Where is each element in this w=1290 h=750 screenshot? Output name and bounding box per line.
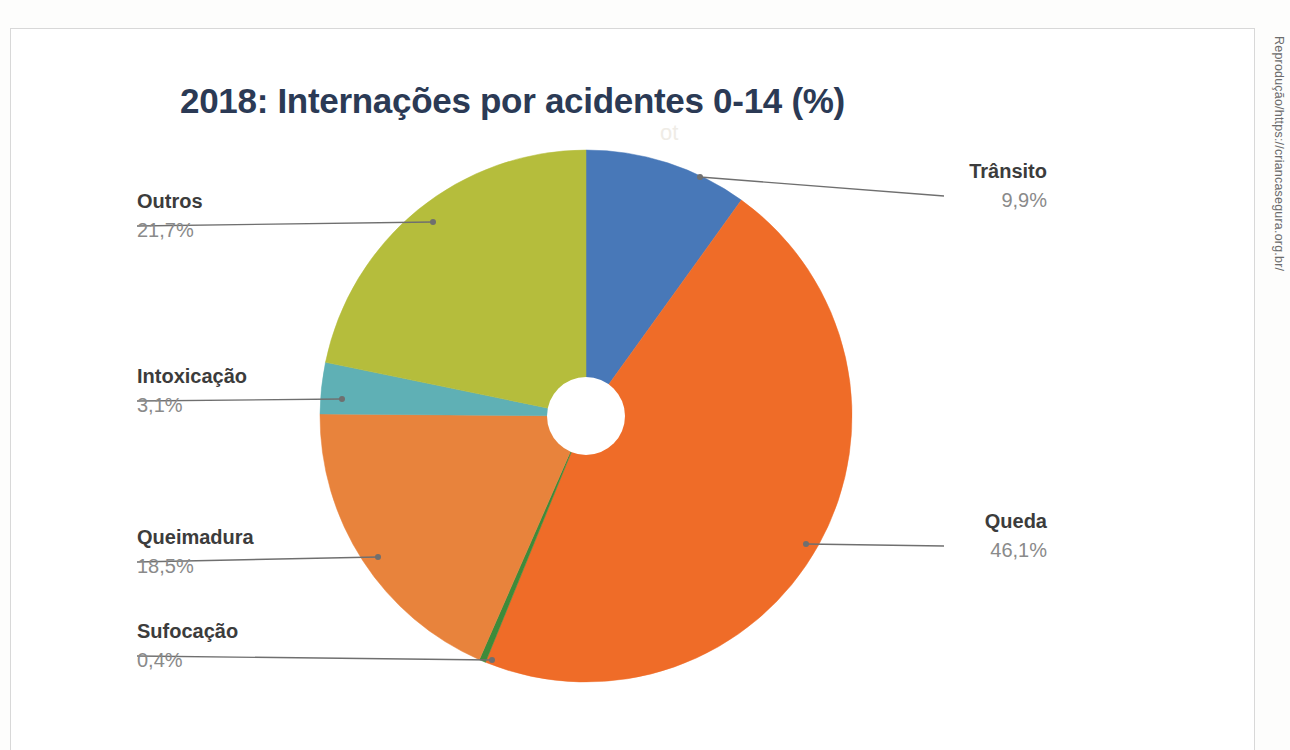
callout-label: Queimadura [137, 524, 457, 550]
callout-value: 21,7% [137, 214, 457, 244]
callout-queda: Queda46,1% [727, 508, 1047, 564]
scanned-page: ot ontram-se em 2018: Internações por ac… [0, 0, 1290, 750]
callout-value: 3,1% [137, 389, 457, 419]
callout-label: Trânsito [727, 158, 1047, 184]
callout-outros: Outros21,7% [137, 188, 457, 244]
donut-hole [547, 377, 625, 455]
callout-queimadura: Queimadura18,5% [137, 524, 457, 580]
callout-value: 18,5% [137, 550, 457, 580]
callout-intoxicao: Intoxicação3,1% [137, 363, 457, 419]
leader-dot-sufocao [489, 657, 495, 663]
callout-label: Queda [727, 508, 1047, 534]
credit-text: Reprodução/https://criancasegura.org.br/ [1258, 36, 1286, 271]
callout-label: Outros [137, 188, 457, 214]
callout-value: 46,1% [727, 534, 1047, 564]
callout-value: 0,4% [137, 644, 457, 674]
leader-dot-trnsito [697, 174, 703, 180]
callout-trnsito: Trânsito9,9% [727, 158, 1047, 214]
callout-value: 9,9% [727, 184, 1047, 214]
callout-sufocao: Sufocação0,4% [137, 618, 457, 674]
callout-label: Intoxicação [137, 363, 457, 389]
callout-label: Sufocação [137, 618, 457, 644]
